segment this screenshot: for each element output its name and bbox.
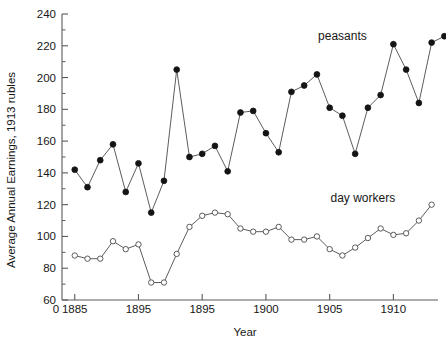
data-point: [174, 67, 180, 73]
y-tick-label: 180: [37, 103, 56, 115]
data-point: [327, 105, 333, 111]
data-point: [174, 251, 179, 256]
data-point: [97, 157, 103, 163]
chart-background: [0, 0, 446, 344]
data-point: [289, 237, 294, 242]
chart-container: 6080100120140160180200220240 18851895189…: [0, 0, 446, 344]
data-point: [98, 256, 103, 261]
data-point: [352, 151, 358, 157]
x-axis-title: Year: [233, 326, 256, 338]
data-point: [314, 71, 320, 77]
data-point: [263, 130, 269, 136]
data-point: [340, 113, 346, 119]
data-point: [327, 246, 332, 251]
data-point: [161, 178, 167, 184]
data-point: [136, 160, 142, 166]
data-point: [378, 226, 383, 231]
y-tick-label: 220: [37, 40, 56, 52]
y-tick-label: 100: [37, 230, 56, 242]
data-point: [123, 246, 128, 251]
line-chart: 6080100120140160180200220240 18851895189…: [0, 0, 446, 344]
data-point: [276, 149, 282, 155]
y-tick-label: 140: [37, 167, 56, 179]
data-point: [85, 184, 91, 190]
data-point: [365, 105, 371, 111]
x-tick-label: 1905: [317, 303, 343, 315]
y-tick-label: 200: [37, 72, 56, 84]
data-point: [149, 280, 154, 285]
y-tick-label: 160: [37, 135, 56, 147]
y-axis-title: Average Annual Earnings, 1913 rubles: [5, 72, 17, 268]
data-point: [187, 154, 193, 160]
data-point: [123, 189, 129, 195]
data-point: [250, 108, 256, 114]
data-point: [391, 232, 396, 237]
data-point: [238, 110, 244, 116]
data-point: [403, 231, 408, 236]
data-point: [136, 242, 141, 247]
x-tick-label: 1895: [126, 303, 152, 315]
data-point: [263, 229, 268, 234]
data-point: [148, 210, 154, 216]
data-point: [110, 239, 115, 244]
series-label-day-workers: day workers: [330, 191, 395, 205]
data-point: [429, 40, 435, 46]
data-point: [276, 224, 281, 229]
data-point: [85, 256, 90, 261]
data-point: [161, 280, 166, 285]
data-point: [250, 229, 255, 234]
data-point: [289, 89, 295, 95]
y-tick-label: 240: [37, 8, 56, 20]
x-tick-label: 1885: [62, 303, 88, 315]
data-point: [238, 226, 243, 231]
data-point: [352, 245, 357, 250]
data-point: [378, 92, 384, 98]
data-point: [416, 100, 422, 106]
data-point: [110, 141, 116, 147]
data-point: [340, 253, 345, 258]
data-point: [72, 253, 77, 258]
x-tick-label: 1910: [381, 303, 407, 315]
data-point: [441, 33, 446, 39]
data-point: [301, 237, 306, 242]
data-point: [212, 143, 218, 149]
data-point: [416, 218, 421, 223]
data-point: [314, 234, 319, 239]
x-tick-label: 1900: [253, 303, 279, 315]
data-point: [301, 83, 307, 89]
series-label-peasants: peasants: [318, 29, 367, 43]
origin-zero-label: 0: [53, 303, 59, 315]
data-point: [403, 67, 409, 73]
data-point: [187, 224, 192, 229]
data-point: [200, 213, 205, 218]
data-point: [365, 235, 370, 240]
y-tick-label: 80: [43, 262, 56, 274]
data-point: [225, 212, 230, 217]
data-point: [429, 202, 434, 207]
y-tick-label: 120: [37, 199, 56, 211]
data-point: [212, 210, 217, 215]
data-point: [225, 168, 231, 174]
data-point: [72, 167, 78, 173]
data-point: [199, 151, 205, 157]
x-tick-label: 1895: [189, 303, 215, 315]
data-point: [390, 41, 396, 47]
